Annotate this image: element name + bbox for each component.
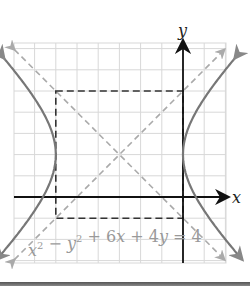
hyperbola-graph: x y x2 − y2 + 6x + 4y = 4 <box>0 0 250 286</box>
equation-label: x2 − y2 + 6x + 4y = 4 <box>28 227 202 260</box>
y-axis-label: y <box>177 21 188 40</box>
bottom-divider <box>0 282 250 286</box>
x-axis-label: x <box>232 188 241 207</box>
